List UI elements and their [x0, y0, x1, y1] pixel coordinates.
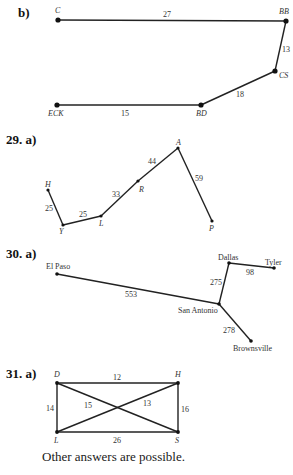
vertex-c: [55, 17, 60, 22]
edge-weight: 27: [163, 10, 171, 19]
problem-label: 31. a): [6, 366, 36, 381]
problem-label: 30. a): [6, 246, 36, 261]
edge-weight: 25: [79, 210, 87, 219]
vertex-label: Dallas: [218, 253, 238, 262]
vertex-label: R: [138, 185, 144, 194]
vertex-label: D: [53, 370, 60, 379]
vertex-label: H: [44, 180, 52, 189]
edge-weight: 15: [84, 401, 92, 410]
edge-weight: 13: [143, 399, 151, 408]
edge-weight: 553: [125, 290, 137, 299]
footer-note: Other answers are possible.: [42, 449, 185, 465]
vertex-eck: [54, 102, 59, 107]
edge-cs-bd: [201, 71, 275, 105]
problem-label: 29. a): [6, 132, 36, 147]
vertex-label: El Paso: [46, 262, 70, 271]
vertex-label: C: [55, 6, 61, 15]
vertex-label: Y: [59, 227, 65, 236]
edge-weight: 26: [113, 436, 121, 445]
problem-29a-graph: 29. a) H Y L R A P 25 25 33 44 59: [6, 132, 214, 236]
edge-weight: 14: [46, 404, 54, 413]
problem-b-graph: b) C BB CS BD ECK 27 13 18 15: [18, 5, 290, 118]
vertex-label: Tyler: [265, 258, 282, 267]
edge-r-a: [138, 148, 178, 181]
vertex-label: San Antonio: [178, 306, 218, 315]
edge-weight: 15: [121, 109, 129, 118]
edge-c-bb: [58, 20, 286, 21]
vertex-bb: [283, 18, 288, 23]
vertex-label: BB: [279, 7, 289, 16]
edge-sanantonio-brownsville: [219, 304, 251, 341]
vertex-cs: [272, 68, 277, 73]
vertex-label: A: [175, 138, 181, 147]
vertex-brownsville: [249, 339, 253, 343]
edge-elpaso-sanantonio: [57, 274, 219, 304]
edge-weight: 16: [181, 405, 189, 414]
graph-canvas: b) C BB CS BD ECK 27 13 18 15 29. a) H Y: [0, 0, 293, 475]
edge-weight: 59: [195, 174, 203, 183]
edge-weight: 18: [236, 90, 244, 99]
vertex-l: [55, 430, 59, 434]
problem-31a-graph: 31. a) D H L S 12 14 16 26 15 13: [6, 366, 189, 445]
vertex-label: P: [208, 224, 214, 233]
vertex-label: Brownsville: [233, 344, 273, 353]
edge-weight: 13: [282, 45, 290, 54]
vertex-label: H: [174, 370, 182, 379]
vertex-p: [210, 219, 213, 222]
edge-weight: 98: [246, 268, 254, 277]
problem-30a-graph: 30. a) El Paso San Antonio Dallas Tyler …: [6, 246, 282, 353]
edge-weight: 44: [148, 157, 156, 166]
vertex-label: S: [175, 436, 179, 445]
vertex-el-paso: [55, 272, 59, 276]
vertex-d: [55, 381, 59, 385]
vertex-h: [176, 381, 180, 385]
edge-a-p: [178, 148, 212, 221]
vertex-label: L: [98, 219, 104, 228]
vertex-s: [176, 430, 180, 434]
vertex-label: BD: [196, 109, 207, 118]
vertex-r: [136, 179, 139, 182]
edge-weight: 25: [45, 204, 53, 213]
edge-weight: 275: [210, 278, 222, 287]
vertex-label: ECK: [47, 109, 64, 118]
edge-weight: 33: [112, 190, 120, 199]
vertex-bd: [198, 102, 203, 107]
problem-label: b): [18, 5, 30, 20]
edge-weight: 278: [223, 326, 235, 335]
vertex-l: [99, 214, 102, 217]
vertex-label: CS: [279, 71, 288, 80]
vertex-label: L: [53, 436, 59, 445]
edge-weight: 12: [113, 373, 121, 382]
